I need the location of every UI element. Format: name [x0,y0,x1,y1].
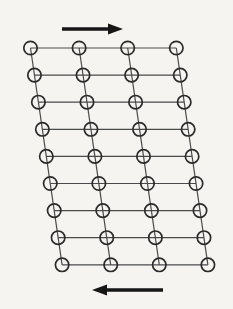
lattice-grid-lines [31,48,208,265]
top-shear-arrow-head [108,24,123,35]
shear-lattice-figure [0,0,233,309]
shear-arrows [62,24,163,296]
lattice-diagram-svg [0,0,233,309]
bottom-shear-arrow-head [92,285,107,296]
